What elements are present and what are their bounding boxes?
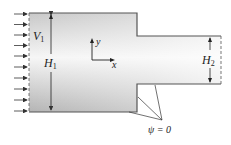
inflow-arrows: [14, 14, 27, 111]
streamline-label: ψ = 0: [148, 124, 171, 135]
x-axis-label: x: [111, 59, 117, 70]
contraction-diagram: H1 V1 H2 y x ψ = 0: [0, 0, 231, 145]
y-axis-label: y: [95, 36, 101, 47]
diagram-canvas: H1 V1 H2 y x ψ = 0: [0, 0, 231, 145]
fluid-region: [29, 13, 221, 112]
